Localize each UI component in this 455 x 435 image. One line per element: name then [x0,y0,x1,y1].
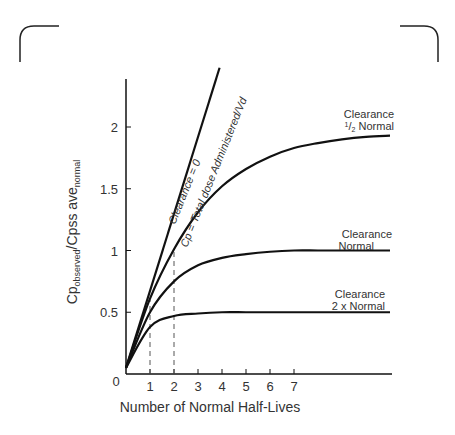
svg-text:Normal: Normal [339,240,374,252]
label-normal: Clearance Normal [339,228,392,252]
origin-label: 0 [112,374,119,389]
label-double-normal: Clearance 2 x Normal [332,288,385,312]
chart: 0.511.52 1234567 Cpobserved/Cpss avenorm… [0,0,455,435]
frame-corner-left [20,26,59,62]
svg-text:Clearance: Clearance [335,288,385,300]
label-half-normal: Clearance 1/2 Normal [344,108,394,133]
svg-text:Clearance: Clearance [342,228,392,240]
svg-text:1/2 Normal: 1/2 Normal [345,120,394,133]
curve-clearance-double-normal [126,312,390,368]
x-axis-title: Number of Normal Half-Lives [120,399,301,415]
x-tick-label: 7 [290,379,297,394]
y-tick-label: 0.5 [100,305,118,320]
x-tick-label: 4 [218,379,225,394]
x-ticks: 1234567 [146,369,297,394]
x-tick-label: 5 [242,379,249,394]
y-tick-label: 1 [111,244,118,259]
svg-text:Clearance: Clearance [344,108,394,120]
y-tick-label: 2 [111,120,118,135]
x-tick-label: 6 [266,379,273,394]
svg-text:2 x Normal: 2 x Normal [332,300,385,312]
x-tick-label: 1 [146,379,153,394]
frame-corner-right [400,26,438,62]
y-axis-title: Cpobserved/Cpss avenormal [64,160,82,305]
y-tick-label: 1.5 [100,182,118,197]
x-tick-label: 3 [194,379,201,394]
reference-lines [150,251,174,375]
x-tick-label: 2 [170,379,177,394]
